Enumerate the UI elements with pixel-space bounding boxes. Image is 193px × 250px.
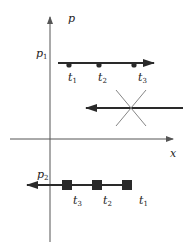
bottom-time-label: t2 — [103, 194, 112, 208]
phase-space-diagram: p x p1 t1 t2 t3 p2 t3 t2 t1 — [0, 0, 193, 250]
bottom-time-label: t3 — [73, 194, 82, 208]
p1-label: p1 — [36, 47, 48, 61]
p2-label: p2 — [37, 168, 49, 182]
x-axis-label: x — [170, 147, 177, 160]
bottom-marker-t3 — [62, 180, 72, 190]
p-axis-label: p — [68, 12, 75, 25]
top-marker-t1 — [66, 62, 71, 67]
top-time-label: t2 — [98, 71, 107, 85]
top-marker-t2 — [96, 62, 101, 67]
bottom-marker-t1 — [122, 180, 132, 190]
top-time-label: t1 — [68, 71, 77, 85]
bottom-marker-t2 — [92, 180, 102, 190]
top-time-label: t3 — [138, 71, 147, 85]
bottom-time-label: t1 — [139, 194, 148, 208]
top-marker-t3 — [131, 62, 136, 67]
